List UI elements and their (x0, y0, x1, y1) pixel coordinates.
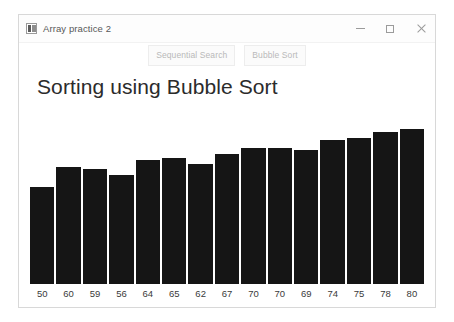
close-icon (416, 24, 425, 33)
bar (241, 148, 265, 284)
toolbar: Sequential Search Bubble Sort (19, 45, 435, 66)
bar (30, 187, 54, 284)
bar-value-label: 50 (30, 288, 54, 299)
bar-value-label: 64 (136, 288, 160, 299)
bar-column (347, 113, 371, 284)
close-button[interactable] (405, 15, 435, 42)
bar (162, 158, 186, 284)
bar-value-label: 75 (347, 288, 371, 299)
client-area: Sequential Search Bubble Sort Sorting us… (19, 43, 435, 307)
bar (294, 150, 318, 284)
app-icon (26, 23, 37, 34)
app-window: Array practice 2 Sequential Search Bubbl… (18, 14, 436, 308)
bar-column (373, 113, 397, 284)
bar-value-label: 67 (215, 288, 239, 299)
bar-column (268, 113, 292, 284)
bar (320, 140, 344, 284)
bar (56, 167, 80, 284)
bar-value-label: 60 (56, 288, 80, 299)
chart-labels: 506059566465626770706974757880 (30, 284, 424, 302)
page-title: Sorting using Bubble Sort (37, 75, 278, 99)
bar-chart: 506059566465626770706974757880 (30, 113, 424, 302)
bar-column (188, 113, 212, 284)
bar-value-label: 59 (83, 288, 107, 299)
bar-value-label: 80 (400, 288, 424, 299)
bar-value-label: 65 (162, 288, 186, 299)
maximize-icon (386, 25, 394, 33)
bar (347, 138, 371, 284)
title-bar[interactable]: Array practice 2 (19, 15, 435, 43)
bar (188, 164, 212, 284)
title-bar-left: Array practice 2 (19, 23, 111, 34)
bubble-sort-button[interactable]: Bubble Sort (244, 45, 306, 66)
bar-column (30, 113, 54, 284)
bar-value-label: 69 (294, 288, 318, 299)
bar-value-label: 70 (241, 288, 265, 299)
bar (83, 169, 107, 284)
bar (268, 148, 292, 284)
bar (400, 129, 424, 284)
bar-column (83, 113, 107, 284)
bar-column (294, 113, 318, 284)
bar-column (109, 113, 133, 284)
bar-value-label: 78 (373, 288, 397, 299)
chart-bars (30, 113, 424, 284)
bar-value-label: 70 (268, 288, 292, 299)
bar-column (400, 113, 424, 284)
bar-value-label: 74 (320, 288, 344, 299)
window-controls (345, 15, 435, 42)
maximize-button[interactable] (375, 15, 405, 42)
bar-value-label: 62 (188, 288, 212, 299)
bar (109, 175, 133, 284)
sequential-search-button[interactable]: Sequential Search (148, 45, 235, 66)
minimize-button[interactable] (345, 15, 375, 42)
bar-column (215, 113, 239, 284)
bar (136, 160, 160, 284)
bar (215, 154, 239, 284)
bar-column (162, 113, 186, 284)
window-title: Array practice 2 (43, 23, 111, 34)
bar-column (136, 113, 160, 284)
bar (373, 132, 397, 284)
bar-value-label: 56 (109, 288, 133, 299)
bar-column (56, 113, 80, 284)
minimize-icon (356, 28, 365, 29)
bar-column (320, 113, 344, 284)
bar-column (241, 113, 265, 284)
desktop-background: Array practice 2 Sequential Search Bubbl… (0, 0, 454, 322)
